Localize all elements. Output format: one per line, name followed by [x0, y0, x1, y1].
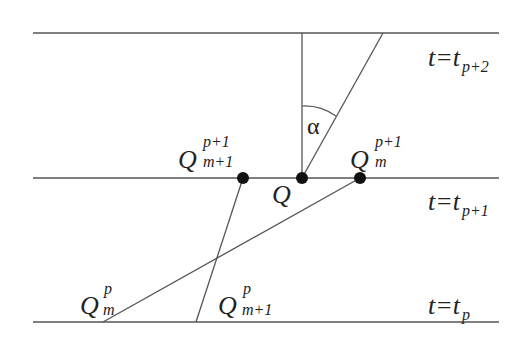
label-q-m-p-sup: p [103, 280, 112, 298]
characteristic-line-q [302, 33, 383, 178]
label-q-m-p1-sup: p+1 [374, 133, 402, 151]
time-label-p: t=t [428, 291, 461, 320]
label-q-m-p-sub: m [103, 301, 115, 318]
label-q-m1-p1: Q [178, 145, 197, 174]
time-label-p2-sub: p+2 [461, 58, 489, 76]
point-q-m1-p1 [237, 172, 249, 184]
time-label-p1-sub: p+1 [461, 202, 489, 220]
label-q-m-p: Q [80, 291, 99, 320]
label-q-m1-p: Q [218, 291, 237, 320]
label-q-m-p1-sub: m [375, 153, 387, 170]
label-q: Q [272, 180, 291, 209]
label-q-m-p1: Q [350, 145, 369, 174]
time-label-p-sub: p [461, 306, 470, 324]
point-q [296, 172, 308, 184]
time-label-p2: t=t [428, 43, 461, 72]
diagram-canvas: α Q p+1 m+1 Q Q p+1 m Q p m Q p m+1 t=t … [0, 0, 526, 345]
label-q-m1-p1-sub: m+1 [203, 153, 233, 170]
label-q-m1-p-sup: p [242, 280, 251, 298]
label-q-m1-p-sub: m+1 [242, 301, 272, 318]
time-label-p1: t=t [428, 187, 461, 216]
label-q-m1-p1-sup: p+1 [202, 133, 230, 151]
alpha-label: α [307, 113, 320, 139]
